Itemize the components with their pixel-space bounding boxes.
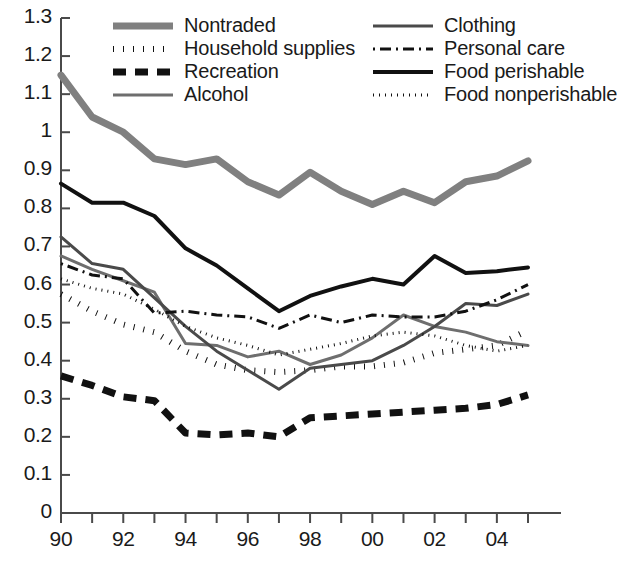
series-line-personal-care [61, 264, 528, 329]
legend-swatch-icon [112, 17, 174, 35]
legend-label: Personal care [444, 37, 565, 60]
y-axis-tick-label: 0.9 [2, 156, 52, 180]
x-axis-tick-label: 94 [164, 527, 208, 551]
x-axis-tick-label: 02 [413, 527, 457, 551]
legend-label: Alcohol [184, 83, 248, 106]
legend-label: Household supplies [184, 37, 355, 60]
legend-item-nontraded[interactable]: Nontraded [112, 14, 355, 37]
legend-swatch-icon [372, 17, 434, 35]
y-axis-tick-label: 0.3 [2, 385, 52, 409]
y-axis-tick-label: 1.1 [2, 80, 52, 104]
legend-label: Recreation [184, 60, 279, 83]
y-axis-tick-label: 0.2 [2, 423, 52, 447]
legend-swatch-icon [112, 63, 174, 81]
x-axis-tick-label: 00 [350, 527, 394, 551]
legend-swatch-icon [112, 86, 174, 104]
y-axis-tick-label: 0.1 [2, 461, 52, 485]
series-line-recreation [61, 376, 528, 437]
y-axis-tick-label: 0.4 [2, 347, 52, 371]
y-axis-tick-label: 0 [2, 499, 52, 523]
x-axis-tick-label: 04 [475, 527, 519, 551]
y-axis-tick-label: 0.5 [2, 309, 52, 333]
data-series-layer [61, 75, 528, 437]
legend-item-food-perishable[interactable]: Food perishable [372, 60, 617, 83]
legend-swatch-icon [372, 40, 434, 58]
series-line-food-perishable [61, 184, 528, 312]
legend-swatch-icon [372, 86, 434, 104]
legend-swatch-icon [112, 40, 174, 58]
series-line-food-nonperishable [61, 279, 528, 355]
legend-label: Food nonperishable [444, 83, 617, 106]
x-axis-tick-label: 98 [288, 527, 332, 551]
legend-item-alcohol[interactable]: Alcohol [112, 83, 355, 106]
y-axis-tick-label: 0.7 [2, 232, 52, 256]
legend-item-food-nonperishable[interactable]: Food nonperishable [372, 83, 617, 106]
legend-label: Nontraded [184, 14, 276, 37]
y-axis-tick-label: 1 [2, 118, 52, 142]
y-axis-tick-label: 0.6 [2, 271, 52, 295]
y-axis-tick-label: 0.8 [2, 194, 52, 218]
legend-item-clothing[interactable]: Clothing [372, 14, 617, 37]
legend-label: Clothing [444, 14, 516, 37]
legend-label: Food perishable [444, 60, 584, 83]
legend-column: ClothingPersonal careFood perishableFood… [372, 14, 617, 106]
x-axis-tick-label: 92 [101, 527, 145, 551]
y-axis-tick-label: 1.2 [2, 42, 52, 66]
legend-item-personal-care[interactable]: Personal care [372, 37, 617, 60]
x-axis-ticks [61, 513, 528, 523]
x-axis-tick-label: 96 [226, 527, 270, 551]
y-axis-tick-label: 1.3 [2, 4, 52, 28]
legend-item-recreation[interactable]: Recreation [112, 60, 355, 83]
legend-item-household-supplies[interactable]: Household supplies [112, 37, 355, 60]
legend-column: NontradedHousehold suppliesRecreationAlc… [112, 14, 355, 106]
x-axis-tick-label: 90 [39, 527, 83, 551]
legend-swatch-icon [372, 63, 434, 81]
